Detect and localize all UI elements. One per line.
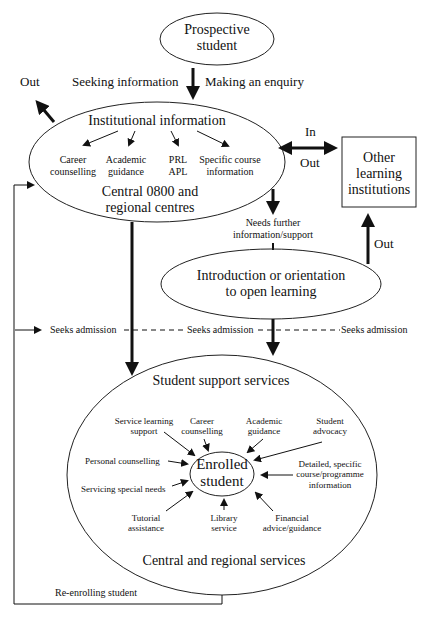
edge-label: Needs further [233, 217, 313, 229]
item-label: guidance [246, 426, 282, 436]
node-other-learning-institutions: Other learning institutions [348, 150, 410, 198]
support-item-library: Library service [211, 513, 238, 534]
item-label: Library [211, 513, 238, 523]
item-label: PRL [169, 154, 188, 166]
edge-label-re-enrolling: Re-enrolling student [55, 587, 137, 599]
support-item-tutorial: Tutorial assistance [128, 513, 164, 534]
edge-label-out-right: Out [374, 237, 394, 252]
inst-item-academic: Academic guidance [106, 154, 147, 177]
item-label: service [211, 523, 238, 533]
item-label: Specific course [199, 154, 260, 166]
node-institutional-title: Institutional information [88, 113, 225, 129]
support-item-academic: Academic guidance [246, 416, 282, 437]
node-label: Introduction or orientation [197, 268, 346, 284]
node-label: regional centres [102, 200, 198, 216]
edge-label-in: In [305, 125, 316, 140]
item-label: counselling [50, 166, 96, 178]
inst-item-prl-apl: PRL APL [169, 154, 188, 177]
node-enrolled-student: Enrolled student [196, 456, 248, 491]
support-item-service-learning: Service learning support [115, 416, 174, 437]
node-label: student [184, 38, 249, 54]
node-prospective-student: Prospective student [184, 22, 249, 54]
edge-label-seeks-admission-3: Seeks admission [341, 324, 407, 336]
item-label: Detailed, specific [296, 459, 363, 469]
node-label: learning [348, 166, 410, 182]
item-label: Student [313, 416, 347, 426]
item-label: Academic [106, 154, 147, 166]
support-item-personal-counselling: Personal counselling [85, 456, 160, 466]
item-label: course/programme [296, 469, 363, 479]
item-label: guidance [106, 166, 147, 178]
item-label: counselling [181, 426, 223, 436]
item-label: APL [169, 166, 188, 178]
item-label: Career [181, 416, 223, 426]
edge-label-out-left: Out [20, 75, 40, 90]
item-label: advice/guidance [263, 523, 321, 533]
item-label: Tutorial [128, 513, 164, 523]
node-label: student [196, 473, 248, 490]
node-central-0800: Central 0800 and regional centres [102, 184, 198, 216]
support-item-advocacy: Student advocacy [313, 416, 347, 437]
item-label: Academic [246, 416, 282, 426]
node-student-support-title: Student support services [153, 373, 290, 389]
inst-item-specific-course: Specific course information [199, 154, 260, 177]
node-introduction-orientation: Introduction or orientation to open lear… [197, 268, 346, 300]
edge-label-seeking: Seeking information [72, 75, 179, 90]
item-label: information [199, 166, 260, 178]
item-label: advocacy [313, 426, 347, 436]
node-label: institutions [348, 182, 410, 198]
item-label: information [296, 480, 363, 490]
node-label: to open learning [197, 284, 346, 300]
edge-label-out-mid: Out [300, 156, 320, 171]
edge-label-seeks-admission-2: Seeks admission [187, 324, 253, 336]
support-item-special-needs: Servicing special needs [81, 484, 165, 494]
node-central-regional-services: Central and regional services [143, 553, 306, 569]
edge-label-seeks-admission-1: Seeks admission [50, 324, 116, 336]
item-label: support [115, 426, 174, 436]
support-item-financial: Financial advice/guidance [263, 513, 321, 534]
inst-item-career: Career counselling [50, 154, 96, 177]
node-label: Central 0800 and [102, 184, 198, 200]
support-item-career: Career counselling [181, 416, 223, 437]
node-label: Enrolled [196, 456, 248, 473]
item-label: Career [50, 154, 96, 166]
node-label: Prospective [184, 22, 249, 38]
support-item-detailed-info: Detailed, specific course/programme info… [296, 459, 363, 490]
item-label: Service learning [115, 416, 174, 426]
item-label: Financial [263, 513, 321, 523]
node-label: Other [348, 150, 410, 166]
item-label: assistance [128, 523, 164, 533]
edge-label: information/support [233, 229, 313, 241]
edge-label-needs-further: Needs further information/support [233, 217, 313, 240]
edge-label-enquiry: Making an enquiry [205, 75, 304, 90]
